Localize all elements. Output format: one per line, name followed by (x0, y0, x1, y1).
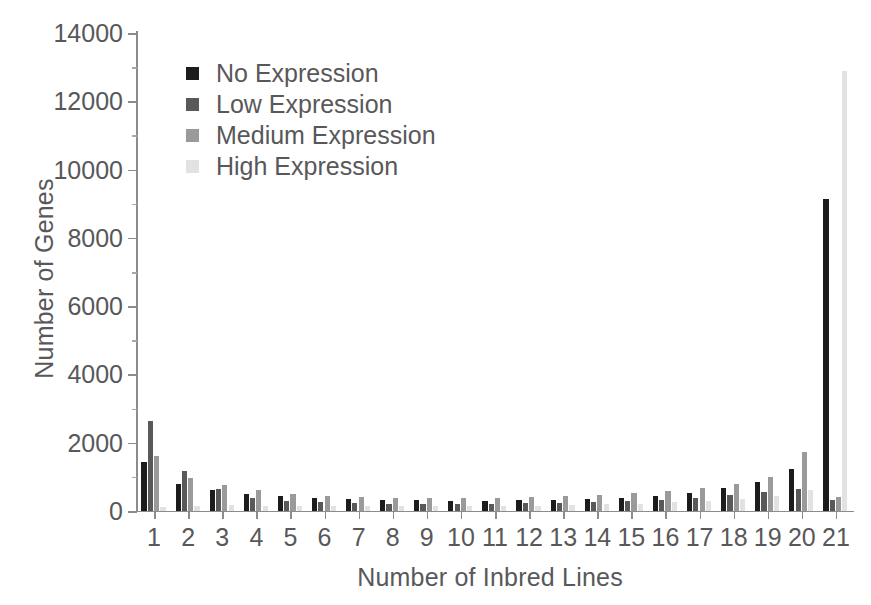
bar-low-expression (148, 421, 153, 511)
bar-no-expression (721, 488, 726, 511)
y-tick-label: 10000 (53, 155, 123, 184)
bar-medium-expression (734, 484, 739, 511)
y-tick-mark (128, 374, 137, 376)
bar-medium-expression (836, 497, 841, 511)
bar-chart: Number of Genes Number of Inbred Lines 0… (0, 0, 871, 605)
bar-high-expression (365, 506, 370, 511)
bar-group (448, 33, 473, 511)
bar-high-expression (501, 506, 506, 511)
y-tick-mark (128, 170, 137, 172)
bar-low-expression (352, 503, 357, 511)
bar-group (789, 33, 814, 511)
y-minor-tick-mark (132, 272, 137, 274)
bar-no-expression (653, 496, 658, 511)
x-tick-label: 5 (283, 523, 297, 552)
x-tick-mark (222, 511, 224, 519)
bar-low-expression (761, 492, 766, 511)
x-tick-mark (529, 511, 531, 519)
x-tick-mark (154, 511, 156, 519)
y-tick-label: 0 (109, 497, 123, 526)
y-tick-mark (128, 101, 137, 103)
bar-no-expression (176, 484, 181, 511)
bar-high-expression (569, 505, 574, 511)
bar-medium-expression (631, 493, 636, 511)
bar-low-expression (591, 502, 596, 511)
bar-no-expression (823, 199, 828, 511)
bar-no-expression (278, 496, 283, 511)
bar-low-expression (250, 498, 255, 511)
bar-medium-expression (563, 496, 568, 511)
x-tick-label: 20 (788, 523, 816, 552)
bar-no-expression (380, 500, 385, 511)
bar-group (721, 33, 746, 511)
x-tick-mark (665, 511, 667, 519)
y-minor-tick-mark (132, 135, 137, 137)
bar-group (585, 33, 610, 511)
bar-medium-expression (768, 477, 773, 511)
bar-medium-expression (529, 497, 534, 511)
bar-group (619, 33, 644, 511)
bar-medium-expression (325, 496, 330, 511)
x-tick-mark (427, 511, 429, 519)
bar-low-expression (455, 504, 460, 511)
x-tick-mark (836, 511, 838, 519)
bar-medium-expression (154, 456, 159, 511)
x-tick-label: 13 (549, 523, 577, 552)
legend-label: Low Expression (216, 92, 392, 117)
x-tick-label: 9 (420, 523, 434, 552)
x-tick-mark (393, 511, 395, 519)
bar-high-expression (194, 506, 199, 511)
x-tick-mark (700, 511, 702, 519)
bar-group (823, 33, 848, 511)
x-tick-label: 3 (215, 523, 229, 552)
bar-high-expression (638, 504, 643, 512)
bar-no-expression (482, 501, 487, 511)
bar-high-expression (433, 506, 438, 511)
x-tick-label: 8 (386, 523, 400, 552)
y-tick-label: 2000 (67, 428, 123, 457)
x-tick-label: 18 (720, 523, 748, 552)
bar-high-expression (774, 496, 779, 511)
x-tick-label: 15 (617, 523, 645, 552)
bar-group (482, 33, 507, 511)
bar-medium-expression (665, 491, 670, 511)
bar-low-expression (523, 503, 528, 511)
x-tick-label: 16 (652, 523, 680, 552)
bar-medium-expression (256, 490, 261, 511)
y-tick-mark (128, 511, 137, 513)
y-tick-label: 14000 (53, 19, 123, 48)
bar-low-expression (625, 501, 630, 511)
bar-group (516, 33, 541, 511)
bar-no-expression (312, 498, 317, 511)
bar-low-expression (693, 498, 698, 511)
bar-no-expression (619, 498, 624, 511)
x-tick-label: 21 (822, 523, 850, 552)
bar-high-expression (672, 502, 677, 511)
x-tick-label: 17 (686, 523, 714, 552)
bar-no-expression (516, 500, 521, 511)
bar-low-expression (796, 489, 801, 511)
bar-low-expression (727, 495, 732, 511)
legend-label: Medium Expression (216, 123, 436, 148)
x-tick-label: 19 (754, 523, 782, 552)
bar-high-expression (467, 506, 472, 511)
y-axis-title: Number of Genes (30, 59, 59, 499)
y-tick-label: 4000 (67, 360, 123, 389)
bar-group (755, 33, 780, 511)
x-tick-mark (768, 511, 770, 519)
x-axis-title: Number of Inbred Lines (120, 563, 860, 592)
legend-item-high-expression: High Expression (186, 151, 436, 182)
legend-swatch-icon (186, 98, 199, 111)
bar-high-expression (229, 505, 234, 511)
y-tick-mark (128, 238, 137, 240)
y-tick-label: 12000 (53, 87, 123, 116)
y-minor-tick-mark (132, 477, 137, 479)
x-tick-mark (290, 511, 292, 519)
bar-medium-expression (427, 498, 432, 511)
legend-item-no-expression: No Expression (186, 58, 436, 89)
bar-high-expression (399, 506, 404, 511)
bar-no-expression (141, 462, 146, 512)
y-tick-mark (128, 443, 137, 445)
x-tick-label: 6 (318, 523, 332, 552)
x-tick-label: 1 (147, 523, 161, 552)
